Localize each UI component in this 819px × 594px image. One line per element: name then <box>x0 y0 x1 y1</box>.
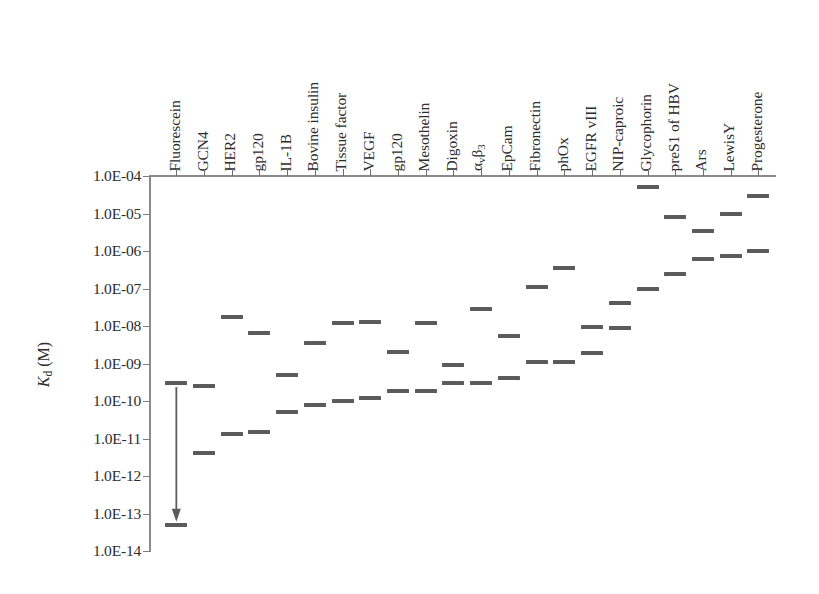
x-axis-category-label: Fibronectin <box>527 101 543 171</box>
y-axis-tick <box>143 251 150 252</box>
x-axis-category-label: NIP-caproic <box>610 96 626 171</box>
x-axis-category-label: gp120 <box>249 133 265 171</box>
x-axis-category-label: EGFR vIII <box>582 105 598 171</box>
x-axis-tick <box>592 169 593 176</box>
y-axis-tick <box>143 439 150 440</box>
y-axis-tick <box>143 551 150 552</box>
x-axis-category-label: Tissue factor <box>333 92 349 171</box>
x-axis-category-label: IL-1B <box>277 134 293 171</box>
x-axis-category-label: preS1 of HBV <box>665 83 681 171</box>
y-axis-tick <box>143 289 150 290</box>
y-axis-tick <box>143 476 150 477</box>
x-axis-tick <box>703 169 704 176</box>
x-axis-category-label: EpCam <box>499 125 515 171</box>
x-axis-category-label: Mesothelin <box>416 102 432 171</box>
x-axis-tick <box>453 169 454 176</box>
x-axis-tick <box>287 169 288 176</box>
x-axis-tick <box>398 169 399 176</box>
affinity-range-arrow <box>150 176 775 551</box>
x-axis-category-label: Fluorescein <box>166 100 182 171</box>
x-axis-tick <box>564 169 565 176</box>
x-axis-tick <box>731 169 732 176</box>
x-axis-tick <box>675 169 676 176</box>
x-axis-category-label: Bovine insulin <box>305 82 321 171</box>
x-axis-tick <box>232 169 233 176</box>
x-axis-tick <box>343 169 344 176</box>
chart-root: Kd (M) 1.0E-041.0E-051.0E-061.0E-071.0E-… <box>0 0 819 594</box>
x-axis-category-label: HER2 <box>222 133 238 171</box>
plot-area <box>150 176 775 551</box>
x-axis-category-label: Progesterone <box>748 91 764 171</box>
x-axis-tick <box>176 169 177 176</box>
x-axis-tick <box>426 169 427 176</box>
y-axis-tick <box>143 514 150 515</box>
x-axis-tick <box>315 169 316 176</box>
arrow-head <box>172 509 181 522</box>
y-axis-tick <box>143 214 150 215</box>
x-axis-category-label: αvβ3 <box>469 144 487 171</box>
x-axis-tick <box>648 169 649 176</box>
x-axis-tick <box>509 169 510 176</box>
x-axis-tick <box>537 169 538 176</box>
x-axis-tick <box>204 169 205 176</box>
y-axis-tick <box>143 401 150 402</box>
x-axis-category-label: Ars <box>693 149 709 171</box>
x-axis-tick <box>620 169 621 176</box>
y-axis-tick <box>143 326 150 327</box>
x-axis-category-label: GCN4 <box>194 131 210 171</box>
x-axis-category-label: VEGF <box>360 131 376 171</box>
x-axis-tick <box>370 169 371 176</box>
x-axis-tick <box>259 169 260 176</box>
x-axis-category-label: LewisY <box>721 123 737 171</box>
x-axis-category-label: gp120 <box>388 133 404 171</box>
x-axis-category-label: Glycophorin <box>638 94 654 171</box>
x-axis-tick <box>481 169 482 176</box>
y-axis-tick <box>143 176 150 177</box>
y-axis-tick <box>143 364 150 365</box>
x-axis-category-label: phOx <box>554 137 570 171</box>
x-axis-category-label: Digoxin <box>443 121 459 171</box>
x-axis-tick <box>758 169 759 176</box>
